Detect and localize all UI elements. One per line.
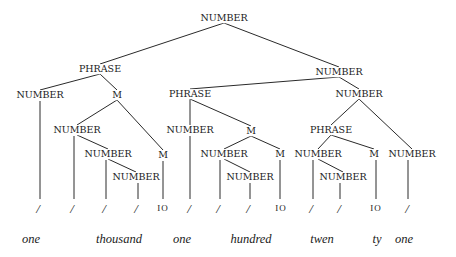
- gloss-word: twen: [310, 233, 334, 246]
- leaf-slash: /: [70, 202, 74, 215]
- tree-node-m: M: [368, 149, 380, 159]
- leaf-slash: /: [36, 202, 40, 215]
- leaf-slash: /: [337, 202, 341, 215]
- tree-node-number: NUMBER: [314, 67, 363, 77]
- tree-node-number: NUMBER: [225, 172, 274, 182]
- tree-node-number: NUMBER: [318, 172, 367, 182]
- tree-edge: [331, 99, 359, 125]
- gloss-word: thousand: [96, 233, 142, 246]
- tree-node-number: NUMBER: [165, 125, 214, 135]
- tree-node-m: M: [274, 149, 286, 159]
- tree-edge: [224, 159, 250, 172]
- tree-node-m: M: [245, 126, 257, 136]
- tree-edge: [108, 159, 136, 172]
- tree-node-number: NUMBER: [83, 149, 132, 159]
- leaf-slash: /: [102, 202, 106, 215]
- tree-edge: [224, 23, 339, 67]
- tree-node-phrase: PHRASE: [309, 125, 353, 135]
- leaf-slash: /: [405, 202, 409, 215]
- tree-edge: [40, 74, 100, 90]
- gloss-word: ty: [372, 233, 381, 246]
- tree-edge: [77, 100, 117, 125]
- gloss-word: one: [22, 233, 40, 246]
- tree-edge: [318, 135, 331, 149]
- tree-edge: [251, 136, 280, 149]
- leaf-slash: /: [187, 202, 191, 215]
- tree-node-m: M: [111, 90, 123, 100]
- tree-node-m: M: [157, 150, 169, 160]
- tree-edge: [190, 99, 251, 126]
- tree-node-number: NUMBER: [199, 149, 248, 159]
- tree-node-phrase: PHRASE: [168, 89, 212, 99]
- tree-node-number: NUMBER: [111, 172, 160, 182]
- tree-edge: [318, 159, 343, 172]
- tree-node-number: NUMBER: [293, 149, 342, 159]
- tree-edge: [331, 135, 374, 149]
- tree-edge: [100, 74, 117, 90]
- leaf-ten: IO: [157, 204, 169, 213]
- leaf-slash: /: [246, 202, 250, 215]
- gloss-word: one: [173, 233, 191, 246]
- tree-edge: [117, 100, 163, 150]
- tree-node-number: NUMBER: [52, 125, 101, 135]
- tree-node-number: NUMBER: [334, 89, 383, 99]
- tree-edge: [224, 136, 251, 149]
- tree-edge: [77, 135, 108, 149]
- leaf-ten: IO: [275, 204, 287, 213]
- tree-edge: [100, 23, 224, 64]
- parse-tree-diagram: NUMBERPHRASENUMBERMNUMBERNUMBERNUMBERMNU…: [0, 0, 456, 257]
- tree-edge: [190, 77, 339, 89]
- gloss-word: one: [395, 233, 413, 246]
- tree-edge: [359, 99, 412, 149]
- leaf-ten: IO: [370, 204, 382, 213]
- leaf-slash: /: [216, 202, 220, 215]
- tree-node-number: NUMBER: [199, 13, 248, 23]
- tree-node-number: NUMBER: [387, 149, 436, 159]
- leaf-slash: /: [134, 202, 138, 215]
- tree-node-phrase: PHRASE: [78, 64, 122, 74]
- leaf-slash: /: [309, 202, 313, 215]
- tree-edge: [339, 77, 359, 89]
- tree-node-number: NUMBER: [15, 90, 64, 100]
- gloss-word: hundred: [230, 233, 271, 246]
